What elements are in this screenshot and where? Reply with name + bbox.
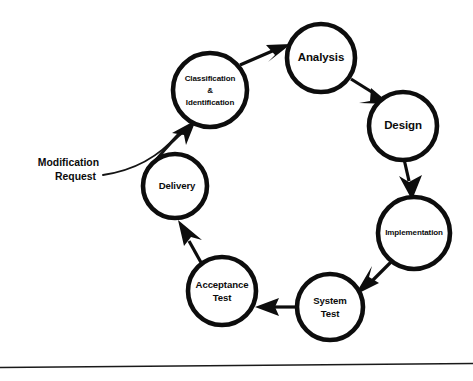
node-label: Implementation: [385, 228, 443, 237]
node-label-line-1: Classification: [185, 74, 236, 83]
node-classification-identification[interactable]: Classification & Identification: [173, 53, 247, 127]
edge-acceptance-test-to-delivery: [178, 220, 203, 266]
node-system-test[interactable]: System Test: [297, 274, 363, 340]
node-label-line-1: Acceptance: [196, 279, 249, 290]
edge-line: [404, 159, 409, 181]
edge-classification-to-analysis: [240, 44, 291, 65]
node-label-line-1: System: [313, 295, 347, 306]
diagram-canvas: Classification & Identification Analysis…: [0, 0, 473, 381]
edge-line: [372, 262, 391, 281]
edge-line: [240, 49, 277, 65]
node-label-line-2: Test: [213, 292, 233, 303]
edge-design-to-implementation: [399, 159, 422, 200]
node-implementation[interactable]: Implementation: [378, 197, 450, 269]
node-label-line-3: Identification: [186, 98, 235, 107]
edge-system-test-to-acceptance-test: [255, 298, 296, 316]
node-label-line-2: Test: [321, 308, 341, 319]
node-acceptance-test[interactable]: Acceptance Test: [188, 257, 256, 325]
external-input-modification-request: Modification Request: [38, 157, 99, 182]
node-analysis[interactable]: Analysis: [287, 24, 355, 92]
modification-request-label-line-2: Request: [55, 171, 97, 182]
node-design[interactable]: Design: [369, 92, 437, 160]
node-label: Analysis: [298, 51, 345, 63]
modification-request-label-line-1: Modification: [38, 157, 99, 168]
node-label: Design: [384, 119, 422, 131]
process-cycle-diagram: Classification & Identification Analysis…: [0, 0, 473, 381]
node-delivery[interactable]: Delivery: [143, 154, 207, 218]
footer-divider: [0, 364, 473, 368]
node-label-line-2: &: [207, 86, 213, 95]
node-label: Delivery: [159, 180, 196, 191]
